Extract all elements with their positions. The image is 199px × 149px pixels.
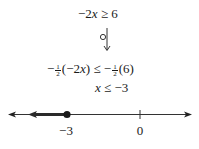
tick-label-zero: 0 — [137, 124, 144, 138]
operator: ≤ — [90, 61, 104, 76]
step-arrow-icon — [100, 28, 110, 51]
lhs-paren: (−2 — [62, 61, 80, 76]
number-line — [8, 110, 192, 119]
multiply-step: −12(−2x) ≤ −12(6) — [47, 62, 134, 77]
negative-sign: − — [47, 61, 54, 76]
operator: ≤ — [101, 80, 115, 95]
tick-label-neg3: −3 — [59, 124, 73, 138]
closed-endpoint-dot — [63, 111, 70, 118]
rhs-paren: (6) — [119, 61, 134, 76]
right-side: −3 — [114, 80, 128, 95]
result-inequality: x ≤ −3 — [95, 81, 128, 95]
fraction-one-half: 12 — [55, 64, 61, 77]
fraction-one-half-2: 12 — [112, 64, 118, 77]
negative-sign-2: − — [104, 61, 111, 76]
